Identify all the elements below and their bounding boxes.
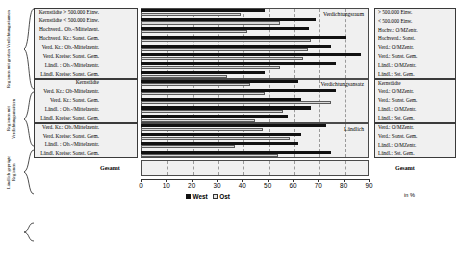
right-category-label: Kernstädte — [376, 81, 456, 86]
right-category-label: Ländl.: O/MZentr. — [376, 63, 456, 68]
tick-label-90: 90 — [359, 182, 379, 189]
right-category-label: Hochverd.: Sonst. — [376, 36, 456, 41]
right-category-label: Hochv.: O/MZentr. — [376, 28, 456, 33]
segment-caption-3: Ländlich — [344, 126, 364, 132]
category-label: Verd. Kreise: Sonst. Gem. — [0, 54, 101, 59]
gridline-40 — [243, 161, 244, 175]
right-category-label: Ländl.: O/MZentr. — [376, 143, 456, 148]
total-label: Gesamt — [100, 165, 120, 171]
bar-ost — [141, 30, 247, 33]
right-category-label: Verd.: Sonst. Gem. — [376, 134, 456, 139]
total-right-label: Gesamt — [395, 165, 415, 171]
right-category-label: Ländl.: Sst. Gem. — [376, 72, 456, 77]
category-label: Verd. Kr.: Sonst. Gem. — [0, 98, 101, 103]
bar-ost — [141, 66, 280, 69]
right-category-label: Verd.: Sonst. Gem. — [376, 54, 456, 59]
gridline-70 — [319, 9, 320, 78]
category-label: Ländl. Kreise: Sonst. Gem. — [0, 72, 101, 77]
right-category-label: Ländl.: Sst. Gem. — [376, 116, 456, 121]
gridline-70 — [319, 161, 320, 175]
tick-label-60: 60 — [283, 182, 303, 189]
gridline-20 — [193, 161, 194, 175]
group-axis-title-3: Ländlich geprägte Regionen — [6, 150, 18, 194]
bar-ost — [141, 48, 308, 51]
tick-label-70: 70 — [308, 182, 328, 189]
bar-ost — [141, 154, 278, 157]
category-label: Kernstädte — [0, 80, 101, 85]
legend-item-ost: Ost — [213, 193, 230, 200]
category-label: Verd. Kr.: Ob.-Mittelzentr. — [0, 45, 101, 50]
bar-ost — [141, 39, 311, 42]
tick-label-40: 40 — [232, 182, 252, 189]
bar-ost — [141, 13, 241, 16]
gridline-50 — [269, 161, 270, 175]
right-category-label: > 500.000 Einw. — [376, 10, 456, 15]
bar-ost — [141, 128, 263, 131]
category-label: Verd. Kr.: Ob./Mittelzentr. — [0, 125, 101, 130]
right-category-label: Ländl.: Sst. Gem. — [376, 151, 456, 156]
gridline-10 — [167, 161, 168, 175]
right-category-label: Ländl.: O/MZentr. — [376, 107, 456, 112]
right-category-label: < 500.000 Einw. — [376, 19, 456, 24]
right-category-label: Verd.: O/MZentr. — [376, 125, 456, 130]
bar-ost — [141, 57, 303, 60]
category-label: Verd. Kr.: Ob-Mittelzentr. — [0, 89, 101, 94]
bar-ost — [141, 137, 290, 140]
legend-swatch-ost — [213, 194, 218, 199]
legend-label-ost: Ost — [219, 193, 230, 200]
gridline-80 — [345, 161, 346, 175]
tick-label-80: 80 — [334, 182, 354, 189]
tick-label-50: 50 — [258, 182, 278, 189]
tick-label-0: 0 — [131, 182, 151, 189]
category-label: Ländl. : Ob.-/Mittelzentr. — [0, 107, 101, 112]
category-label: Kernstädte < 500.000 Einw. — [0, 18, 101, 23]
gridline-80 — [345, 9, 346, 78]
category-label: Verd. Kreise: Sonst. Gem. — [0, 134, 101, 139]
bar-ost — [141, 101, 331, 104]
legend: West Ost — [186, 193, 230, 200]
bar-ost — [141, 92, 265, 95]
tick-label-30: 30 — [207, 182, 227, 189]
category-label: Ländl. : Ob.-/Mittelzentr. — [0, 142, 101, 147]
brace-total — [23, 222, 35, 242]
segment-caption-1: Verdichtungsraum — [323, 11, 364, 17]
x-axis — [141, 179, 369, 180]
category-label: Ländl. Kreise: Sonst. Gem. — [0, 151, 101, 156]
gridline-60 — [294, 161, 295, 175]
right-category-label: Verd.: Sonst. Gem. — [376, 98, 456, 103]
category-label: Ländl. Kreise: Sonst. Gem. — [0, 116, 101, 121]
bar-ost — [141, 21, 280, 24]
category-label: Hochverd. Kr.: Sonst. Gem. — [0, 36, 101, 41]
bar-ost — [141, 110, 283, 113]
right-category-label: Verd.: O/MZentr. — [376, 45, 456, 50]
tick-label-10: 10 — [156, 182, 176, 189]
tick-label-20: 20 — [182, 182, 202, 189]
legend-item-west: West — [186, 193, 208, 200]
category-label: Ländl. : Ob.-/Mittelzentr. — [0, 63, 101, 68]
gridline-30 — [218, 161, 219, 175]
total-row-box — [141, 160, 369, 176]
right-category-label: Verd.: O/MZentr. — [376, 89, 456, 94]
x-axis-unit-label: in % — [404, 192, 415, 198]
chart-container: Regionen mit großen Verdichtungsräumen R… — [0, 0, 462, 274]
bar-ost — [141, 145, 235, 148]
legend-swatch-west — [186, 194, 191, 199]
category-label: Kernstädte > 500.000 Einw. — [0, 10, 101, 15]
category-label: Hochverd.. Ob.-/Mittelzent. — [0, 27, 101, 32]
bar-ost — [141, 75, 227, 78]
bar-ost — [141, 119, 255, 122]
segment-caption-2: Verdichtungsansatz — [321, 81, 365, 87]
legend-label-west: West — [193, 193, 208, 200]
bar-ost — [141, 83, 250, 86]
